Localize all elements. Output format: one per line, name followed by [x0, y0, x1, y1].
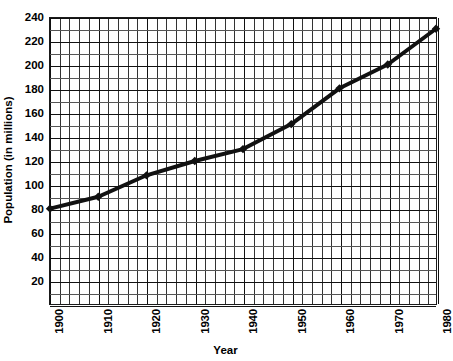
y-axis-tick-label: 140 [0, 131, 44, 143]
y-axis-tick-label: 20 [0, 275, 44, 287]
gridline-horizontal-major [50, 306, 436, 307]
x-axis-tick-label: 1950 [296, 309, 308, 334]
x-axis-tick-label: 1900 [53, 309, 65, 334]
x-axis-tick-label: 1940 [247, 309, 259, 334]
y-axis-tick-label: 60 [0, 227, 44, 239]
y-axis-tick-label: 40 [0, 251, 44, 263]
x-axis-tick-label: 1930 [199, 309, 211, 334]
x-axis-tick-label: 1980 [441, 309, 453, 334]
data-line [50, 29, 436, 209]
y-axis-tick-label: 200 [0, 59, 44, 71]
x-axis-tick-label: 1960 [344, 309, 356, 334]
y-axis-tick-label: 120 [0, 155, 44, 167]
plot-area [49, 17, 437, 305]
y-axis-tick-label: 80 [0, 203, 44, 215]
y-axis-tick-label: 180 [0, 83, 44, 95]
x-axis-title: Year [0, 344, 451, 356]
series-line [50, 18, 436, 304]
x-axis-tick-label: 1910 [102, 309, 114, 334]
y-axis-tick-label: 240 [0, 11, 44, 23]
data-point-marker [46, 204, 54, 212]
gridline-vertical-major [438, 18, 439, 304]
x-axis-tick-label: 1920 [150, 309, 162, 334]
x-axis-tick-label: 1970 [393, 309, 405, 334]
y-axis-tick-label: 100 [0, 179, 44, 191]
y-axis-tick-label: 220 [0, 35, 44, 47]
y-axis-tick-label: 160 [0, 107, 44, 119]
